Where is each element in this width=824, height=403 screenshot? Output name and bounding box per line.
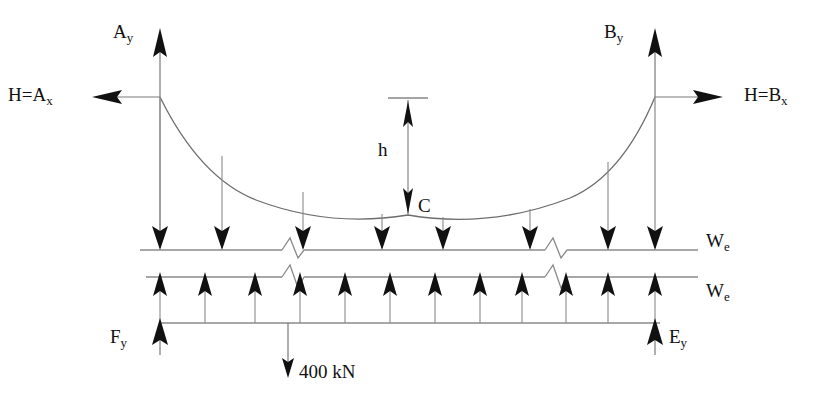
label-reaction-ay: Ay <box>113 22 133 45</box>
label-horizontal-left-text: H=A <box>8 84 46 105</box>
label-point-load-400kn: 400 kN <box>299 362 355 381</box>
label-load-lower-we: We <box>706 281 730 304</box>
label-reaction-fy-text: F <box>110 326 121 347</box>
label-reaction-by: By <box>604 22 623 45</box>
label-sag-height: h <box>378 140 388 159</box>
label-load-upper-text: W <box>706 230 724 251</box>
label-load-lower-text: W <box>706 280 724 301</box>
label-reaction-fy: Fy <box>110 327 127 350</box>
label-reaction-fy-subscript: y <box>121 335 127 350</box>
label-reaction-by-subscript: y <box>617 30 623 45</box>
label-reaction-ay-text: A <box>113 21 127 42</box>
label-load-upper-we: We <box>706 231 730 254</box>
label-horizontal-left-subscript: x <box>46 93 52 108</box>
label-horizontal-right-text: H=B <box>744 84 781 105</box>
label-horizontal-reaction-right: H=Bx <box>744 85 788 108</box>
label-load-lower-subscript: e <box>724 289 730 304</box>
label-reaction-by-text: B <box>604 21 617 42</box>
label-horizontal-reaction-left: H=Ax <box>8 85 53 108</box>
label-horizontal-right-subscript: x <box>781 93 787 108</box>
label-reaction-ey-subscript: y <box>681 335 687 350</box>
label-reaction-ey: Ey <box>669 327 687 350</box>
label-low-point-c: C <box>418 196 431 215</box>
label-reaction-ay-subscript: y <box>127 30 133 45</box>
label-reaction-ey-text: E <box>669 326 681 347</box>
diagram-canvas: Ay By H=Ax H=Bx h C We We Fy Ey 400 kN <box>0 0 824 403</box>
label-load-upper-subscript: e <box>724 239 730 254</box>
